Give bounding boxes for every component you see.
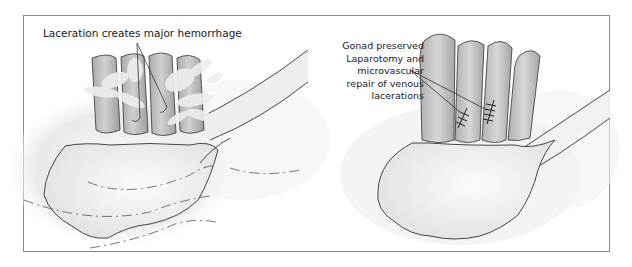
vein-1 xyxy=(420,34,455,143)
repair-label-line-3: microvascular xyxy=(338,65,424,78)
right-veins xyxy=(420,34,540,143)
vein-2 xyxy=(455,41,484,143)
repair-label-line-1: Gonad preserved xyxy=(338,40,424,53)
left-panel xyxy=(10,43,330,248)
repair-label-line-4: repair of venous xyxy=(338,78,424,91)
illustration xyxy=(0,0,632,267)
repair-label: Gonad preserved Laparotomy and microvasc… xyxy=(338,40,424,103)
hemorrhage-label: Laceration creates major hemorrhage xyxy=(43,27,242,40)
repair-label-line-2: Laparotomy and xyxy=(338,53,424,66)
repair-label-line-5: lacerations xyxy=(338,90,424,103)
